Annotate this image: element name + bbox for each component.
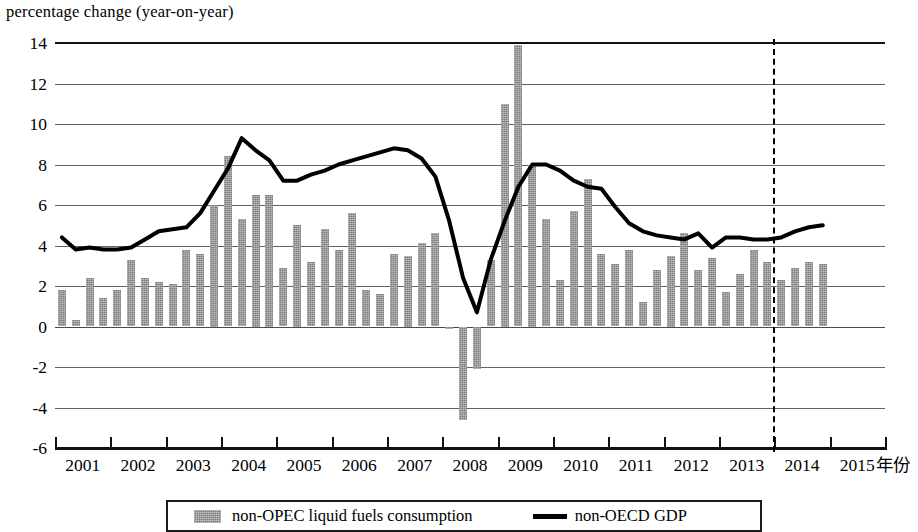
bar	[542, 219, 550, 326]
y-tick-label: 10	[3, 115, 47, 133]
bar	[127, 260, 135, 327]
gridline-8	[55, 165, 885, 166]
x-tick-label: 2013	[717, 455, 777, 475]
bar	[653, 270, 661, 327]
y-tick-label: 0	[3, 318, 47, 336]
gridline-14	[55, 42, 885, 44]
x-tick-label: 2004	[219, 455, 279, 475]
bar	[321, 229, 329, 326]
x-tick-label: 2012	[661, 455, 721, 475]
y-tick-label: -2	[3, 358, 47, 376]
bar	[736, 274, 744, 327]
bar	[348, 213, 356, 326]
x-tick-label: 2009	[495, 455, 555, 475]
gridline-2	[55, 286, 885, 287]
x-axis-tick	[553, 437, 555, 448]
bar	[570, 211, 578, 326]
gridline-6	[55, 205, 885, 206]
x-axis-tick	[221, 437, 223, 448]
bar	[390, 254, 398, 327]
x-tick-label: 2007	[385, 455, 445, 475]
bar	[750, 250, 758, 327]
x-axis-tick	[608, 437, 610, 448]
x-axis-tick	[55, 437, 57, 448]
gridline-4	[55, 246, 885, 247]
gridline-10	[55, 124, 885, 125]
bar	[473, 327, 481, 370]
bar	[58, 290, 66, 326]
y-tick-label: -6	[3, 439, 47, 457]
x-tick-label: 2008	[440, 455, 500, 475]
bar	[169, 284, 177, 327]
x-tick-label: 2014	[772, 455, 832, 475]
bar	[155, 282, 163, 327]
gridline-0	[55, 327, 885, 328]
bar	[445, 327, 453, 329]
bar	[625, 250, 633, 327]
y-tick-label: 2	[3, 277, 47, 295]
bar	[307, 262, 315, 327]
y-tick-label: 6	[3, 196, 47, 214]
x-axis-tick	[332, 437, 334, 448]
bar	[279, 268, 287, 327]
x-tick-label: 2011	[606, 455, 666, 475]
bar	[805, 262, 813, 327]
bar	[501, 104, 509, 327]
chart-container: percentage change (year-on-year) -6-4-20…	[0, 0, 918, 532]
bar	[265, 195, 273, 327]
x-tick-label: 2002	[108, 455, 168, 475]
x-axis-tick	[276, 437, 278, 448]
y-tick-label: -4	[3, 399, 47, 417]
legend-item-bars: non-OPEC liquid fuels consumption	[194, 507, 473, 525]
bar	[611, 264, 619, 327]
x-axis-tick	[442, 437, 444, 448]
x-tick-label: 2006	[329, 455, 389, 475]
bar	[113, 290, 121, 326]
bar	[404, 256, 412, 327]
bar	[335, 250, 343, 327]
bar	[72, 320, 80, 326]
x-axis-title: 年份	[876, 455, 910, 475]
gridline--4	[55, 408, 885, 409]
bar	[514, 45, 522, 326]
gridline--2	[55, 367, 885, 368]
bar	[196, 254, 204, 327]
bar	[362, 290, 370, 326]
x-axis-tick	[387, 437, 389, 448]
bar	[597, 254, 605, 327]
bar	[763, 262, 771, 327]
x-tick-label: 2005	[274, 455, 334, 475]
legend-bars-label: non-OPEC liquid fuels consumption	[232, 507, 473, 525]
x-axis-tick	[664, 437, 666, 448]
bar	[459, 327, 467, 420]
bar	[528, 165, 536, 327]
bar	[210, 205, 218, 327]
bar	[639, 302, 647, 326]
y-tick-label: 14	[3, 34, 47, 52]
bar	[722, 292, 730, 326]
legend-item-line: non-OECD GDP	[533, 507, 687, 525]
gridline-12	[55, 84, 885, 85]
bar	[182, 250, 190, 327]
bar	[431, 233, 439, 326]
bar	[86, 278, 94, 327]
chart-legend: non-OPEC liquid fuels consumption non-OE…	[166, 500, 762, 532]
chart-title: percentage change (year-on-year)	[6, 2, 234, 22]
bar	[819, 264, 827, 327]
bar	[791, 268, 799, 327]
x-axis-tick	[166, 437, 168, 448]
bar	[252, 195, 260, 327]
bar	[556, 280, 564, 327]
bar	[680, 233, 688, 326]
legend-line-label: non-OECD GDP	[575, 507, 687, 525]
forecast-divider-line	[773, 39, 775, 452]
x-axis-tick	[830, 437, 832, 448]
x-tick-label: 2010	[551, 455, 611, 475]
bar	[99, 298, 107, 326]
bar	[667, 256, 675, 327]
legend-bar-swatch-icon	[194, 510, 221, 523]
x-tick-label: 2001	[53, 455, 113, 475]
x-axis-tick	[719, 437, 721, 448]
bar	[584, 179, 592, 327]
bar	[141, 278, 149, 327]
